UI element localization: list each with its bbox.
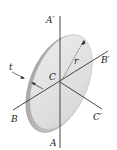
label-thickness: t	[9, 62, 13, 72]
label-radius: r	[74, 56, 79, 66]
label-a-top: A′	[45, 15, 55, 25]
disk-diagram: A′ A B B′ C C′ t r	[0, 0, 117, 150]
label-c-right: C′	[93, 112, 102, 122]
label-c-center: C	[49, 72, 56, 82]
label-a-bottom: A	[49, 138, 57, 148]
label-b-right: B′	[100, 55, 110, 65]
label-b-left: B	[10, 114, 18, 124]
